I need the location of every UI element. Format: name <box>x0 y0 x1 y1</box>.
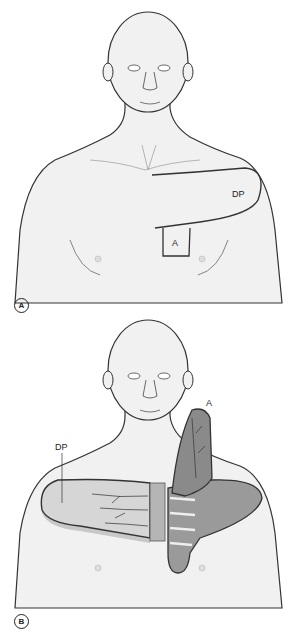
torso-illustration-a: DP A <box>0 0 296 320</box>
torso-illustration-b: DP A <box>0 318 296 634</box>
label-a: A <box>206 398 212 408</box>
eye-icon <box>128 373 140 379</box>
label-a: A <box>172 238 178 248</box>
panel-letter-b: B <box>14 614 29 629</box>
torso-outline <box>15 95 282 303</box>
label-dp: DP <box>232 189 245 199</box>
eye-icon <box>158 65 170 71</box>
panel-letter-a: A <box>14 298 29 313</box>
eye-icon <box>158 373 170 379</box>
label-dp: DP <box>55 442 68 452</box>
head-outline <box>108 12 188 112</box>
head-outline <box>108 320 188 420</box>
panel-a: DP A A <box>0 0 296 320</box>
eye-icon <box>128 65 140 71</box>
panel-b: DP A B <box>0 318 296 634</box>
